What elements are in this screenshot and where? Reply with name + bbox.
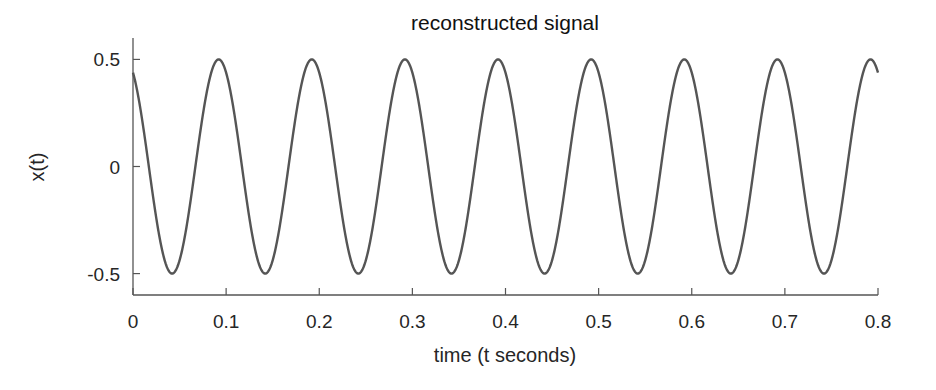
y-tick-label: -0.5 <box>87 264 120 285</box>
y-ticks: 0.50-0.5 <box>87 49 140 284</box>
y-tick-label: 0.5 <box>94 49 120 70</box>
x-tick-label: 0.4 <box>492 311 519 332</box>
series-line <box>133 59 878 273</box>
x-tick-label: 0.1 <box>213 311 239 332</box>
x-tick-label: 0.2 <box>306 311 332 332</box>
x-axis-label: time (t seconds) <box>434 344 576 366</box>
x-tick-label: 0.6 <box>679 311 705 332</box>
chart: reconstructed signal 00.10.20.30.40.50.6… <box>0 0 936 390</box>
y-tick-label: 0 <box>109 157 120 178</box>
chart-title: reconstructed signal <box>411 11 599 34</box>
x-tick-label: 0.7 <box>772 311 798 332</box>
plot-area <box>133 59 878 273</box>
x-tick-label: 0 <box>128 311 139 332</box>
x-tick-label: 0.8 <box>865 311 891 332</box>
y-axis-label: x(t) <box>26 153 48 182</box>
x-tick-label: 0.5 <box>585 311 611 332</box>
x-tick-label: 0.3 <box>399 311 425 332</box>
